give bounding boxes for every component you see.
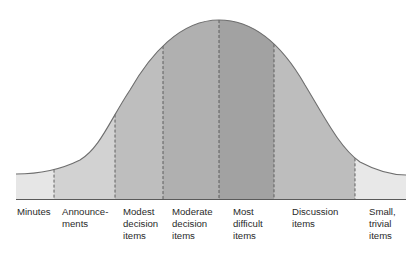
segment-minutes (16, 0, 54, 200)
segment-most-difficult-items (219, 0, 274, 200)
segment-fills (16, 0, 406, 200)
segment-announcements (54, 0, 115, 200)
label-most-difficult-items: Most difficult items (233, 206, 263, 242)
label-minutes: Minutes (17, 206, 51, 218)
label-announcements: Announce- ments (62, 206, 108, 230)
segment-small-trivial-items (355, 0, 406, 200)
label-modest-decision-items: Modest decision items (123, 206, 158, 242)
label-discussion-items: Discussion items (292, 206, 338, 230)
segment-modest-decision-items (115, 0, 163, 200)
label-moderate-decision-items: Moderate decision items (172, 206, 213, 242)
label-small-trivial-items: Small, trivial items (369, 206, 396, 242)
segment-moderate-decision-items (163, 0, 219, 200)
bell-curve-diagram (0, 0, 420, 205)
